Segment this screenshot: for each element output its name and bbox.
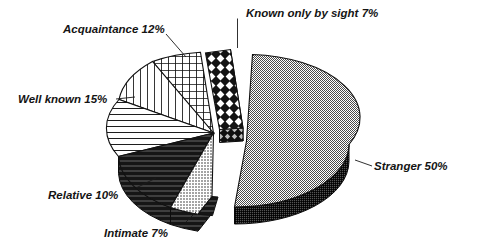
label-known-only-by-sight: Known only by sight 7% xyxy=(246,7,378,19)
label-intimate: Intimate 7% xyxy=(104,227,168,239)
pie-chart-figure: Known only by sight 7% Acquaintance 12% … xyxy=(0,0,479,249)
pie-chart-svg: Known only by sight 7% Acquaintance 12% … xyxy=(0,0,479,249)
label-relative: Relative 10% xyxy=(48,189,118,201)
slice-side-known-only-by-sight-base xyxy=(220,128,244,143)
label-well-known: Well known 15% xyxy=(18,93,107,105)
label-stranger: Stranger 50% xyxy=(374,160,448,172)
label-acquaintance: Acquaintance 12% xyxy=(62,23,165,35)
